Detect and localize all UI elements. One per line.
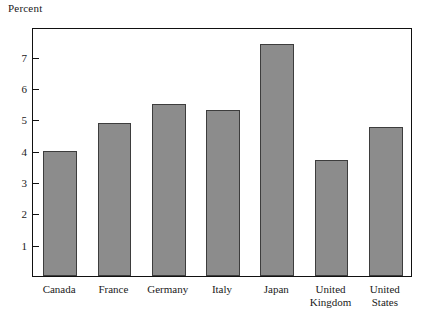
- bar: [152, 104, 186, 276]
- y-axis-tick-label: 5: [22, 114, 28, 126]
- y-axis-tick-label: 7: [22, 52, 28, 64]
- bar: [315, 160, 349, 276]
- bar: [43, 151, 77, 276]
- bar: [260, 44, 294, 276]
- y-axis-tick-label: 1: [22, 240, 28, 252]
- y-axis-tick: 6: [32, 89, 39, 90]
- plot-frame: [32, 28, 412, 277]
- y-axis-tick: 2: [32, 214, 39, 215]
- y-axis-tick-label: 6: [22, 83, 28, 95]
- x-axis-label: Germany: [141, 283, 195, 296]
- plot-area: [33, 29, 411, 276]
- x-axis-label: France: [86, 283, 140, 296]
- x-axis-label: Canada: [32, 283, 86, 296]
- y-axis-tick: 1: [32, 246, 39, 247]
- bar: [206, 110, 240, 276]
- y-axis-title: Percent: [8, 2, 42, 14]
- x-axis-label: United Kingdom: [303, 283, 357, 309]
- y-axis-tick: 5: [32, 120, 39, 121]
- y-axis-tick: 4: [32, 152, 39, 153]
- x-axis-label: Italy: [195, 283, 249, 296]
- bar-chart: Percent 1234567 CanadaFranceGermanyItaly…: [0, 0, 427, 320]
- y-axis-tick: 7: [32, 58, 39, 59]
- y-axis-tick-label: 2: [22, 208, 28, 220]
- y-axis-tick-label: 4: [22, 146, 28, 158]
- x-axis-label: Japan: [249, 283, 303, 296]
- y-axis-tick-label: 3: [22, 177, 28, 189]
- bar: [369, 127, 403, 276]
- x-axis-label: United States: [358, 283, 412, 309]
- bar: [98, 123, 132, 276]
- y-axis-tick: 3: [32, 183, 39, 184]
